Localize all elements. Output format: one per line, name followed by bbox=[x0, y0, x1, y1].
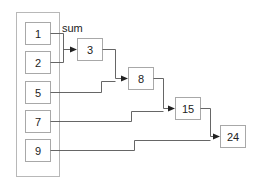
input-box-5: 9 bbox=[26, 140, 51, 162]
sum-label: sum bbox=[62, 22, 83, 34]
arrow-head-icon bbox=[168, 106, 175, 112]
cumulative-sum-diagram: 1 2 5 7 9 sum 3 8 15 24 bbox=[0, 0, 259, 183]
sum-value: 3 bbox=[87, 44, 93, 56]
connector-to-sum-3 bbox=[51, 79, 176, 122]
input-value: 7 bbox=[35, 116, 41, 128]
input-value: 1 bbox=[35, 28, 41, 40]
arrow-head-icon bbox=[121, 76, 128, 82]
input-value: 5 bbox=[35, 87, 41, 99]
arrow-head-icon bbox=[70, 47, 77, 53]
sum-box-3: 15 bbox=[176, 98, 201, 120]
sum-box-2: 8 bbox=[129, 68, 154, 90]
arrow-head-icon bbox=[213, 134, 220, 140]
input-value: 2 bbox=[35, 57, 41, 69]
input-box-2: 2 bbox=[26, 52, 51, 74]
sum-box-1: 3 bbox=[78, 39, 103, 61]
input-value: 9 bbox=[35, 145, 41, 157]
input-box-4: 7 bbox=[26, 111, 51, 133]
sum-value: 24 bbox=[227, 131, 239, 143]
input-box-1: 1 bbox=[26, 23, 51, 45]
sum-value: 8 bbox=[138, 73, 144, 85]
sum-box-4: 24 bbox=[221, 126, 246, 148]
sum-value: 15 bbox=[182, 103, 194, 115]
input-box-3: 5 bbox=[26, 82, 51, 104]
